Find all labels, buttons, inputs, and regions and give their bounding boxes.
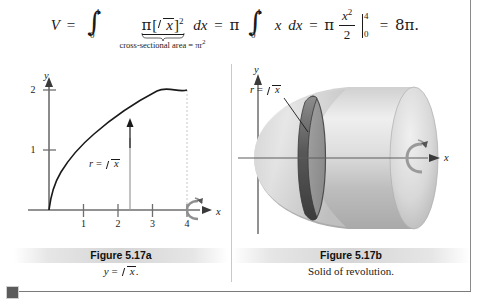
fraction-numerator-exponent: 2 xyxy=(348,7,353,17)
figure-b-caption-title: Figure 5.17b xyxy=(232,248,470,263)
figure-a-sub-equals: = xyxy=(109,265,121,277)
integral-sign-2: 4 ∫ 0 xyxy=(245,11,265,41)
figure-a-radius-equals: = xyxy=(93,158,105,169)
sqrt-curve-path xyxy=(49,89,187,210)
pi-factor-2: π xyxy=(229,16,239,34)
page-frame-marker xyxy=(6,286,19,299)
figure-a-sub-y: y xyxy=(104,265,109,277)
equation-equals-4: = xyxy=(377,17,391,33)
figure-b-x-axis-label: x xyxy=(444,152,449,163)
figure-b-radius-radicand: x xyxy=(266,84,281,95)
figure-a-radius-label: r=x xyxy=(89,158,120,169)
figure-b-caption-subtitle: Solid of revolution. xyxy=(232,265,470,277)
figure-b-radius-equals: = xyxy=(254,84,266,95)
page-frame-bottom-rule xyxy=(14,291,471,292)
evaluation-upper-limit: 4 xyxy=(364,11,369,21)
equation-equals-2: = xyxy=(211,17,225,33)
fraction-numerator: x2 xyxy=(339,7,355,26)
integrand-2: x xyxy=(271,17,282,33)
integral-lower-limit-1: 0 xyxy=(90,30,95,40)
figure-a-caption-title: Figure 5.17a xyxy=(14,248,228,263)
figure-b-panel: y x r=x Figure 5.17b Solid of revolution… xyxy=(232,62,470,284)
x-axis-arrowhead xyxy=(202,206,212,214)
figure-a-caption-subtitle: y=x. xyxy=(14,265,228,277)
pi-factor-3: π xyxy=(324,16,334,34)
sqrt-radicand-1: x xyxy=(157,17,174,34)
curve-draft xyxy=(49,60,187,210)
underbrace-label-text: cross-sectional area = πr xyxy=(119,39,202,49)
figure-a-y-tick-label-2: 2 xyxy=(26,84,40,95)
figure-a-radius-radicand: x xyxy=(105,158,120,169)
equation-result: 8π. xyxy=(395,16,419,34)
fraction-denominator: 2 xyxy=(339,26,355,43)
page-frame-right-rule xyxy=(470,0,471,292)
equation-equals-1: = xyxy=(64,17,78,33)
figure-a-x-tick-label-4: 4 xyxy=(181,218,194,229)
figure-b-radius-label: r=x xyxy=(250,84,281,95)
underbrace-label: cross-sectional area = πr2 xyxy=(119,38,205,50)
equation-lhs: V xyxy=(51,17,60,33)
integrand-exponent: 2 xyxy=(179,16,184,26)
differential-1: dx xyxy=(189,17,207,33)
figure-a-panel: y x 1 2 1 2 3 4 r=x Figure 5.17a y=x. xyxy=(14,62,228,284)
figure-a-sub-radicand: x xyxy=(121,265,136,277)
figure-a-x-axis-label: x xyxy=(216,206,221,217)
integral-lower-limit-2: 0 xyxy=(251,30,256,40)
equation-equals-3: = xyxy=(306,17,320,33)
evaluation-bar: 4 0 xyxy=(361,13,373,39)
rotation-arrow-icon xyxy=(187,198,203,219)
figure-a-y-tick-label-1: 1 xyxy=(26,144,40,155)
evaluation-bar-line xyxy=(362,14,363,38)
evaluation-lower-limit: 0 xyxy=(364,29,369,39)
figure-a-x-tick-label-2: 2 xyxy=(112,218,125,229)
figure-a-x-tick-label-1: 1 xyxy=(77,218,90,229)
underbrace-label-exponent: 2 xyxy=(202,38,205,45)
fraction-x-squared-over-2: x2 2 xyxy=(339,7,355,43)
figure-a-x-tick-label-3: 3 xyxy=(146,218,159,229)
display-equation: V = 4 ∫ 0 π[x]2 cross-sectional area = π… xyxy=(0,2,470,52)
differential-2: dx xyxy=(285,17,302,33)
integrand-pi: π xyxy=(142,16,152,34)
figure-a-y-axis-label: y xyxy=(44,70,49,81)
underbrace-group: π[x]2 cross-sectional area = πr2 xyxy=(142,16,184,34)
equation-row: V = 4 ∫ 0 π[x]2 cross-sectional area = π… xyxy=(0,8,470,44)
radius-arrowhead xyxy=(127,118,134,127)
figure-a-sub-period: . xyxy=(136,265,139,277)
figure-b-y-axis-label: y xyxy=(254,64,259,75)
integral-sign-1: 4 ∫ 0 xyxy=(84,11,104,41)
figure-a-plot xyxy=(14,62,228,242)
